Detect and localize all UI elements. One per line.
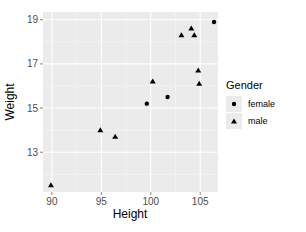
circle-icon <box>232 102 236 106</box>
x-tick-label: 105 <box>192 196 209 207</box>
x-tick-label: 90 <box>46 196 58 207</box>
plot-panel <box>43 12 218 192</box>
data-point-female <box>165 95 169 99</box>
legend-label-male: male <box>248 116 268 126</box>
x-axis-title: Height <box>113 207 148 221</box>
legend-label-female: female <box>248 99 275 109</box>
legend: Gender female male <box>226 79 275 129</box>
y-axis: 13151719 <box>27 14 43 158</box>
y-tick-label: 17 <box>27 58 39 69</box>
scatter-chart: 9095100105 13151719 Height Weight Gender… <box>0 0 306 232</box>
x-tick-label: 100 <box>142 196 159 207</box>
x-axis: 9095100105 <box>46 192 209 207</box>
legend-item-female: female <box>226 96 275 112</box>
data-point-female <box>212 20 216 24</box>
x-tick-label: 95 <box>96 196 108 207</box>
legend-item-male: male <box>226 113 268 129</box>
y-tick-label: 15 <box>27 103 39 114</box>
y-axis-title: Weight <box>3 83 17 121</box>
y-tick-label: 13 <box>27 147 39 158</box>
data-point-female <box>145 101 149 105</box>
legend-title: Gender <box>226 79 263 91</box>
y-tick-label: 19 <box>27 14 39 25</box>
